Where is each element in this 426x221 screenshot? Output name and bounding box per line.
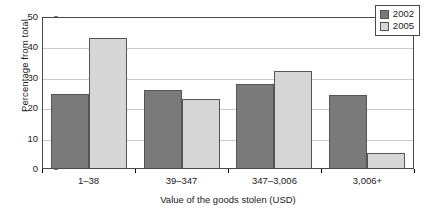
- legend-entry-2002[interactable]: 2002: [380, 8, 414, 20]
- bar-2005-4[interactable]: [367, 153, 405, 169]
- x-tick-label: 347–3,006: [235, 175, 315, 186]
- x-tick-mark: [414, 169, 415, 173]
- x-axis-title: Value of the goods stolen (USD): [42, 194, 414, 205]
- x-tick-mark: [42, 169, 43, 173]
- legend-label: 2005: [393, 21, 414, 31]
- y-tick-label: 30: [16, 73, 38, 83]
- bar-chart-figure: Percentage from total 01020304050 1–3839…: [0, 0, 426, 221]
- bar-group: [142, 18, 222, 168]
- bar-2002-3[interactable]: [236, 84, 274, 168]
- bar-group: [327, 18, 407, 168]
- plot-area: [42, 17, 414, 169]
- bar-group: [49, 18, 129, 168]
- legend-entry-2005[interactable]: 2005: [380, 20, 414, 32]
- x-tick-mark: [321, 169, 322, 173]
- bars-layer: [43, 18, 413, 168]
- bar-2005-3[interactable]: [274, 71, 312, 168]
- y-tick-label: 10: [16, 134, 38, 144]
- legend-swatch-icon: [380, 22, 389, 31]
- y-axis-tick-labels: 01020304050: [16, 17, 38, 169]
- y-tick-label: 20: [16, 103, 38, 113]
- bar-group: [234, 18, 314, 168]
- y-tick-label: 0: [16, 164, 38, 174]
- x-tick-label: 39–347: [142, 175, 222, 186]
- bar-2002-4[interactable]: [329, 95, 367, 168]
- x-tick-label: 3,006+: [328, 175, 408, 186]
- x-tick-mark: [135, 169, 136, 173]
- legend-label: 2002: [393, 9, 414, 19]
- x-tick-mark: [228, 169, 229, 173]
- x-tick-label: 1–38: [49, 175, 129, 186]
- y-tick-label: 50: [16, 12, 38, 22]
- legend-swatch-icon: [380, 10, 389, 19]
- bar-2005-2[interactable]: [182, 99, 220, 168]
- bar-2002-2[interactable]: [144, 90, 182, 168]
- bar-2005-1[interactable]: [89, 38, 127, 168]
- x-axis-tick-marks: [42, 169, 414, 174]
- bar-2002-1[interactable]: [51, 94, 89, 168]
- legend: 20022005: [375, 5, 420, 36]
- x-axis-tick-labels: 1–3839–347347–3,0063,006+: [42, 175, 414, 186]
- y-tick-label: 40: [16, 43, 38, 53]
